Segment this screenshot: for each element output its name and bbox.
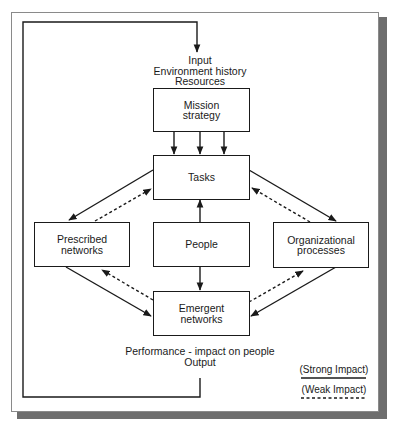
legend-strong-label: (Strong Impact) (299, 364, 369, 375)
emergent-to-organizational-arrow (249, 271, 303, 302)
node-people: People (153, 222, 250, 267)
organizational-to-tasks-arrow (252, 188, 310, 222)
output-line-1: Performance - impact on people (112, 346, 288, 357)
mission-to-tasks-arrows (174, 131, 224, 154)
node-prescribed-line-1: Prescribed (57, 234, 107, 245)
node-mission-line-2: strategy (183, 110, 220, 121)
emergent-to-prescribed-arrow (102, 270, 153, 300)
node-emergent-line-2: networks (180, 314, 222, 325)
tasks-to-organizational-arrow (249, 170, 336, 221)
input-label: Input Environment history Resources (147, 55, 253, 87)
node-prescribed-line-2: networks (61, 245, 103, 256)
node-emergent-networks: Emergent networks (153, 291, 250, 336)
legend-weak-label: (Weak Impact) (299, 384, 369, 395)
node-people-line-1: People (185, 239, 218, 250)
output-line-2: Output (112, 357, 288, 368)
node-organizational-processes: Organizational processes (273, 222, 369, 268)
node-mission-strategy: Mission strategy (153, 88, 250, 132)
organizational-to-emergent-arrow (251, 267, 336, 316)
output-label: Performance - impact on people Output (112, 346, 288, 367)
prescribed-to-tasks-arrow (95, 189, 151, 221)
node-organizational-line-2: processes (297, 245, 345, 256)
node-tasks-line-1: Tasks (188, 172, 215, 183)
input-line-3: Resources (147, 76, 253, 87)
node-prescribed-networks: Prescribed networks (34, 222, 130, 267)
node-emergent-line-1: Emergent (179, 303, 225, 314)
input-line-1: Input (147, 55, 253, 66)
node-tasks: Tasks (153, 155, 250, 200)
